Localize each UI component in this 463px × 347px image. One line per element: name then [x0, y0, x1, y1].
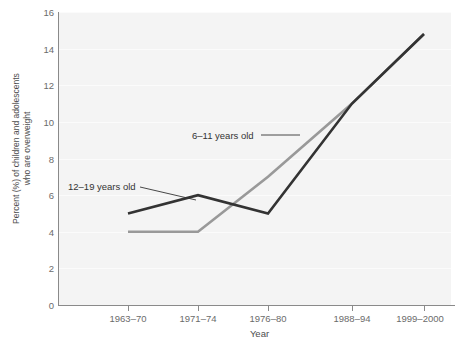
y-tick-12: 12	[14, 80, 54, 91]
y-tick-10: 10	[14, 117, 54, 128]
gridline-16	[59, 12, 451, 13]
x-tick-mark-2	[268, 306, 269, 311]
y-tick-4: 4	[14, 227, 54, 238]
x-tick-label-2: 1976–80	[223, 313, 313, 324]
y-tick-labels: 16 14 12 10 8 6 4 2 0	[8, 0, 54, 347]
y-tick-0: 0	[14, 300, 54, 311]
gridline-6	[59, 195, 451, 196]
series-annotation-6-11: 6–11 years old	[192, 130, 254, 141]
gridline-10	[59, 122, 451, 123]
x-axis-title: Year	[0, 328, 463, 339]
y-tick-6: 6	[14, 190, 54, 201]
x-tick-mark-0	[128, 306, 129, 311]
gridline-12	[59, 85, 451, 86]
x-tick-mark-1	[198, 306, 199, 311]
gridline-8	[59, 159, 451, 160]
x-tick-mark-3	[352, 306, 353, 311]
gridline-2	[59, 268, 451, 269]
y-tick-16: 16	[14, 7, 54, 18]
y-axis-line	[58, 12, 59, 306]
plot-area	[59, 12, 451, 305]
y-tick-2: 2	[14, 263, 54, 274]
x-tick-mark-4	[424, 306, 425, 311]
y-tick-14: 14	[14, 44, 54, 55]
gridline-4	[59, 232, 451, 233]
line-chart: Percent (%) of children and adolescents …	[0, 0, 463, 347]
x-tick-label-4: 1999–2000	[375, 313, 463, 324]
gridline-14	[59, 49, 451, 50]
series-annotation-12-19: 12–19 years old	[68, 181, 136, 192]
x-axis-line	[58, 305, 455, 306]
y-tick-8: 8	[14, 154, 54, 165]
